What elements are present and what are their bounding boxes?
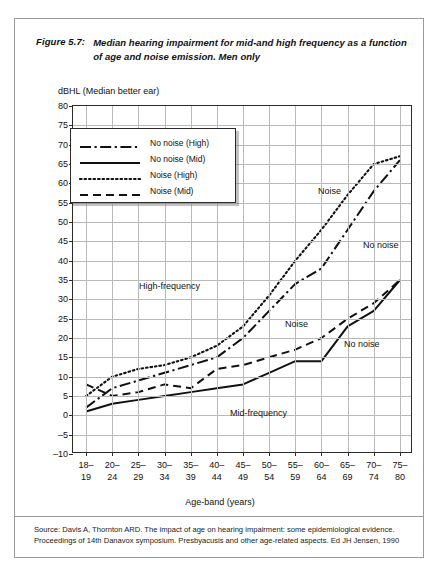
x-axis-label: Age-band (years)	[0, 497, 440, 507]
y-tick-label: 15	[38, 352, 68, 362]
legend-item[interactable]: Noise (High)	[79, 167, 227, 183]
legend-swatch	[79, 186, 141, 196]
chart-annotation: Mid-frequency	[230, 408, 287, 418]
legend-label: Noise (Mid)	[150, 186, 193, 196]
x-tick-mark	[321, 452, 322, 456]
x-tick-label: 45–49	[235, 460, 250, 483]
x-tick-label: 40–44	[209, 460, 224, 483]
grid-line-horizontal	[73, 396, 411, 397]
grid-line-horizontal	[73, 299, 411, 300]
x-tick-mark	[217, 452, 218, 456]
y-tick-label: –10	[38, 449, 68, 459]
x-tick-mark	[269, 452, 270, 456]
legend-label: No noise (High)	[150, 138, 209, 148]
chart-annotation: No noise	[363, 240, 399, 250]
y-tick-mark	[69, 280, 73, 281]
grid-line-horizontal	[73, 377, 411, 378]
source-divider	[15, 516, 423, 517]
y-tick-label: 10	[38, 372, 68, 382]
y-tick-label: 70	[38, 140, 68, 150]
x-tick-label: 30–34	[157, 460, 172, 483]
grid-line-horizontal	[73, 125, 411, 126]
y-tick-label: 65	[38, 159, 68, 169]
figure-container: Figure 5.7: Median hearing impairment fo…	[0, 0, 440, 581]
y-tick-label: 25	[38, 314, 68, 324]
x-tick-label: 55–59	[288, 460, 303, 483]
y-tick-mark	[69, 435, 73, 436]
legend-label: No noise (Mid)	[150, 154, 205, 164]
y-tick-mark	[69, 319, 73, 320]
y-tick-label: 75	[38, 120, 68, 130]
x-tick-mark	[86, 452, 87, 456]
figure-number: Figure 5.7:	[36, 36, 85, 47]
grid-line-horizontal	[73, 222, 411, 223]
y-tick-mark	[69, 299, 73, 300]
grid-line-horizontal	[73, 357, 411, 358]
x-tick-mark	[112, 452, 113, 456]
y-tick-mark	[69, 396, 73, 397]
y-tick-label: 0	[38, 410, 68, 420]
legend-swatch	[79, 170, 141, 180]
y-tick-mark	[69, 125, 73, 126]
y-tick-label: 40	[38, 256, 68, 266]
chart-annotation: High-frequency	[139, 281, 200, 291]
y-tick-mark	[69, 415, 73, 416]
x-tick-mark	[400, 452, 401, 456]
x-tick-mark	[165, 452, 166, 456]
y-tick-mark	[69, 357, 73, 358]
x-tick-mark	[191, 452, 192, 456]
x-tick-mark	[295, 452, 296, 456]
y-tick-mark	[69, 241, 73, 242]
grid-line-horizontal	[73, 261, 411, 262]
grid-line-vertical	[295, 106, 296, 452]
chart-legend: No noise (High)No noise (Mid)Noise (High…	[70, 128, 236, 203]
grid-line-horizontal	[73, 319, 411, 320]
grid-line-vertical	[243, 106, 244, 452]
grid-line-horizontal	[73, 280, 411, 281]
y-tick-mark	[69, 222, 73, 223]
page-title: Median hearing impairment for mid-and hi…	[93, 36, 408, 63]
x-tick-label: 35–39	[183, 460, 198, 483]
x-tick-label: 65–69	[340, 460, 355, 483]
legend-item[interactable]: Noise (Mid)	[79, 183, 227, 199]
x-tick-label: 70–74	[366, 460, 381, 483]
source-line-2: Proceedings of 14th Danavox symposium. P…	[34, 535, 418, 546]
grid-line-vertical	[269, 106, 270, 452]
legend-label: Noise (High)	[150, 170, 197, 180]
source-line-1: Source: Davis A, Thornton ARD. The impac…	[34, 524, 418, 535]
grid-line-vertical	[400, 106, 401, 452]
y-tick-label: 45	[38, 236, 68, 246]
grid-line-vertical	[374, 106, 375, 452]
grid-line-vertical	[321, 106, 322, 452]
y-axis-label: dBHL (Median better ear)	[58, 86, 159, 96]
legend-swatch	[79, 138, 141, 148]
x-tick-label: 25–29	[131, 460, 146, 483]
y-tick-label: 5	[38, 391, 68, 401]
chart-annotation: No noise	[344, 339, 380, 349]
y-tick-label: 35	[38, 275, 68, 285]
x-tick-label: 75–80	[392, 460, 407, 483]
y-tick-label: 50	[38, 217, 68, 227]
figure-title-block: Figure 5.7: Median hearing impairment fo…	[36, 36, 408, 63]
x-tick-label: 20–24	[105, 460, 120, 483]
grid-line-horizontal	[73, 435, 411, 436]
y-tick-label: –5	[38, 430, 68, 440]
y-tick-mark	[69, 454, 73, 455]
x-tick-label: 60–64	[314, 460, 329, 483]
y-tick-mark	[69, 377, 73, 378]
source-note: Source: Davis A, Thornton ARD. The impac…	[34, 524, 418, 546]
legend-item[interactable]: No noise (Mid)	[79, 151, 227, 167]
x-tick-label: 50–54	[262, 460, 277, 483]
chart-annotation: Noise	[285, 319, 308, 329]
grid-line-vertical	[348, 106, 349, 452]
y-tick-label: 80	[38, 101, 68, 111]
x-tick-label: 18–19	[79, 460, 94, 483]
legend-item[interactable]: No noise (High)	[79, 135, 227, 151]
x-tick-mark	[374, 452, 375, 456]
chart-annotation: Noise	[318, 186, 341, 196]
y-tick-mark	[69, 261, 73, 262]
grid-line-horizontal	[73, 241, 411, 242]
x-tick-mark	[138, 452, 139, 456]
y-tick-label: 30	[38, 294, 68, 304]
y-tick-label: 20	[38, 333, 68, 343]
